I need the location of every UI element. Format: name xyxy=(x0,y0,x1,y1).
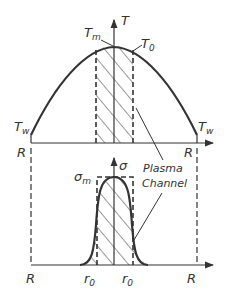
t-axis-label: T xyxy=(121,13,130,28)
bottom-r-left-label: R xyxy=(26,271,35,286)
r0-right-label: r0 xyxy=(122,271,133,288)
plasma-channel-diagram: T Tm T0 Tw Tw R R σ σm Plasma Channel R … xyxy=(0,0,228,298)
plasma-leader-bottom xyxy=(134,193,162,240)
plasma-label: Plasma xyxy=(143,162,183,175)
bottom-r-right-label: R xyxy=(187,271,196,286)
t0-label: T0 xyxy=(141,36,155,53)
tw-right-label: Tw xyxy=(198,119,214,136)
temperature-plot xyxy=(31,20,213,143)
top-r-right-label: R xyxy=(184,145,193,160)
plasma-leader-top xyxy=(136,108,163,160)
sigma-m-label: σm xyxy=(74,169,91,186)
conductivity-plot xyxy=(31,158,213,265)
tm-leader-line xyxy=(101,40,113,46)
r0-left-label: r0 xyxy=(84,271,95,288)
tm-label: Tm xyxy=(84,25,101,42)
sigma-axis-label: σ xyxy=(119,158,128,173)
top-r-left-label: R xyxy=(17,145,26,160)
tw-left-label: Tw xyxy=(14,119,30,136)
channel-label: Channel xyxy=(142,177,187,190)
